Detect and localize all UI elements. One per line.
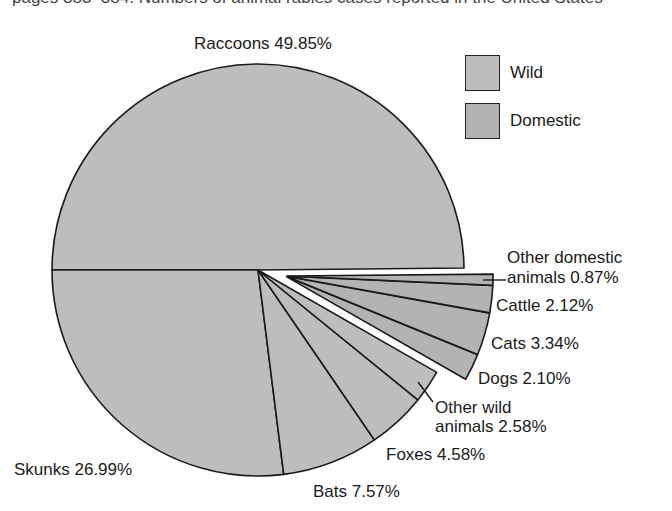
label-cattle: Cattle 2.12% bbox=[496, 296, 593, 315]
label-other-domestic-line1: Other domestic bbox=[507, 248, 622, 267]
label-bats: Bats 7.57% bbox=[313, 482, 400, 501]
label-skunks: Skunks 26.99% bbox=[14, 460, 132, 479]
label-other-wild-line1: Other wild bbox=[435, 398, 512, 417]
label-other-domestic-line2: animals 0.87% bbox=[507, 268, 619, 287]
legend-label-wild: Wild bbox=[510, 63, 543, 83]
label-raccoons: Raccoons 49.85% bbox=[194, 34, 332, 53]
legend-label-domestic: Domestic bbox=[510, 111, 581, 131]
label-other-wild-line2: animals 2.58% bbox=[435, 417, 547, 436]
legend-swatch-domestic bbox=[465, 103, 500, 139]
label-cats: Cats 3.34% bbox=[491, 334, 579, 353]
label-foxes: Foxes 4.58% bbox=[386, 445, 485, 464]
legend-swatch-wild bbox=[465, 55, 500, 91]
legend-item-wild: Wild bbox=[465, 55, 543, 91]
legend-item-domestic: Domestic bbox=[465, 103, 581, 139]
pie-slice-raccoons bbox=[52, 64, 464, 270]
pie-slice-skunks bbox=[52, 270, 284, 476]
label-dogs: Dogs 2.10% bbox=[478, 369, 571, 388]
